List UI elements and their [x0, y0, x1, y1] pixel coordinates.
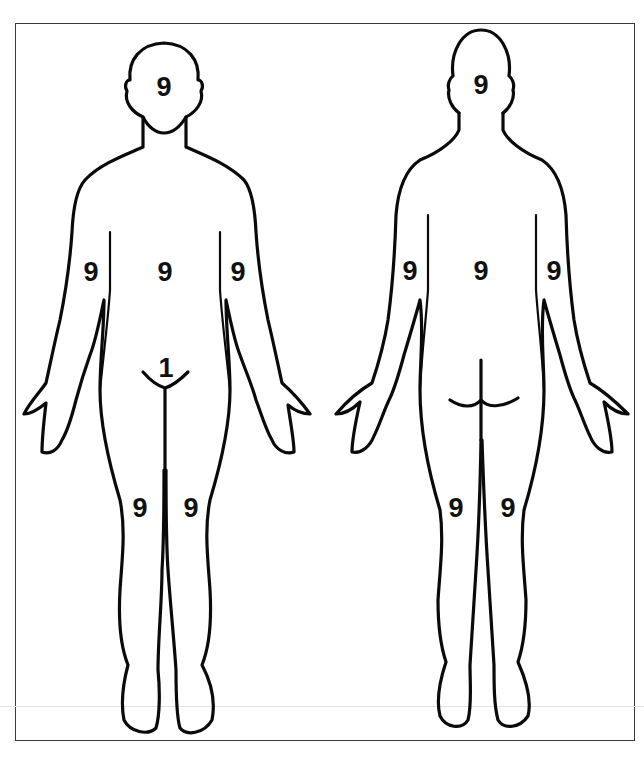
front-left-arm-label: 9: [230, 259, 245, 286]
back-torso-label: 9: [473, 258, 488, 285]
front-left-leg-label: 9: [183, 495, 198, 522]
front-right-arm-label: 9: [83, 259, 98, 286]
front-torso-label: 9: [157, 259, 172, 286]
back-right-arm-label: 9: [402, 258, 417, 285]
back-buttock-line: [450, 398, 518, 406]
back-left-arm-label: 9: [546, 258, 561, 285]
back-figure: [336, 30, 628, 726]
body-outlines: [0, 0, 644, 758]
front-head-label: 9: [156, 74, 171, 101]
front-genitals-label: 1: [158, 355, 173, 382]
front-torso-right: [166, 117, 310, 733]
back-left-leg-label: 9: [500, 495, 515, 522]
back-torso-right: [482, 113, 628, 726]
back-torso-left: [336, 113, 481, 726]
back-right-leg-label: 9: [448, 495, 463, 522]
back-head-label: 9: [473, 72, 488, 99]
front-right-leg-label: 9: [132, 495, 147, 522]
front-figure: [24, 43, 310, 733]
front-torso-left: [24, 117, 164, 732]
